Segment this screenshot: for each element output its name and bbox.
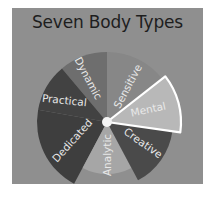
body-types-wheel: Sensitive Dynamic Practical Dedicated An… [0, 0, 214, 216]
center-hub [102, 117, 112, 127]
label-analytic: Analytic [101, 134, 113, 176]
